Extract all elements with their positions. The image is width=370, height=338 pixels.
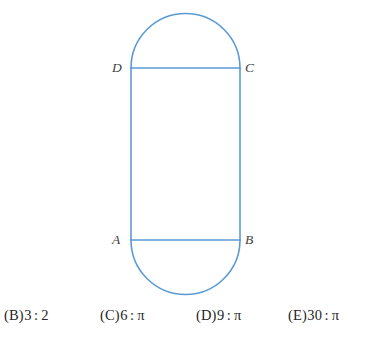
answer-choice-b-value2: 2: [41, 307, 48, 323]
vertex-label-b: B: [245, 233, 253, 247]
answer-choice-d-letter: (D): [196, 307, 216, 323]
answer-choice-e-value: 30: [307, 307, 322, 323]
answer-choice-e-ratio-colon: :: [325, 307, 329, 323]
answer-choice-b-ratio-colon: :: [34, 307, 38, 323]
answer-choice-e[interactable]: (E)30:π: [288, 302, 339, 328]
answer-choice-c-letter: (C): [100, 307, 120, 323]
vertex-label-a: A: [112, 233, 120, 247]
answer-choice-d-value2: π: [234, 307, 241, 323]
answer-choice-e-value2: π: [332, 307, 339, 323]
answer-choices-row: (B)3:2 (C)6:π (D)9:π (E)30:π: [0, 302, 370, 334]
answer-choice-d[interactable]: (D)9:π: [196, 302, 241, 328]
answer-choice-e-letter: (E): [288, 307, 307, 323]
answer-choice-d-value: 9: [217, 307, 224, 323]
bottom-semicircle-arc: [131, 240, 240, 294]
vertex-label-d: D: [112, 61, 122, 75]
geometry-figure: D C A B: [0, 0, 370, 300]
answer-choice-c-ratio-colon: :: [130, 307, 134, 323]
answer-choice-b-value: 3: [24, 307, 31, 323]
answer-choice-d-ratio-colon: :: [227, 307, 231, 323]
answer-choice-b-letter: (B): [4, 307, 24, 323]
stadium-shape-svg: [0, 0, 370, 300]
answer-choice-c[interactable]: (C)6:π: [100, 302, 145, 328]
answer-choice-c-value: 6: [120, 307, 127, 323]
answer-choice-c-value2: π: [137, 307, 144, 323]
vertex-label-c: C: [245, 61, 254, 75]
top-semicircle-arc: [131, 14, 240, 68]
answer-choice-b[interactable]: (B)3:2: [4, 302, 49, 328]
